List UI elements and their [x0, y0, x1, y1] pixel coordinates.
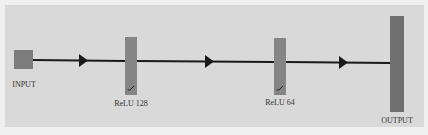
node-relu128 — [125, 37, 137, 95]
network-diagram — [0, 0, 428, 135]
label-input: INPUT — [12, 80, 36, 89]
arrowhead-icon — [205, 55, 214, 68]
node-input — [14, 50, 33, 69]
arrowhead-icon — [339, 56, 348, 69]
edge-relu128-to-relu64 — [137, 55, 274, 68]
edge-input-to-relu128 — [33, 54, 125, 67]
label-relu64: ReLU 64 — [265, 98, 295, 107]
label-output: OUTPUT — [381, 116, 413, 125]
arrowhead-icon — [79, 54, 88, 67]
edge-relu64-to-output — [286, 56, 390, 69]
node-output — [390, 16, 404, 112]
label-relu128: ReLU 128 — [114, 99, 148, 108]
node-relu64 — [274, 38, 286, 95]
